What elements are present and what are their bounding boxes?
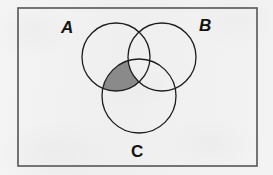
set-label-a: A	[61, 19, 73, 36]
set-label-b: B	[199, 17, 211, 34]
circle-set-b	[128, 23, 196, 91]
venn-diagram-figure: A B C	[0, 0, 273, 175]
set-label-c: C	[131, 143, 143, 160]
